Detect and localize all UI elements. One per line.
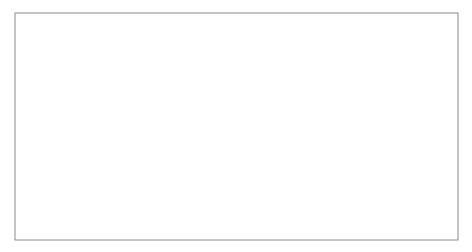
storm-jvm-diagram	[0, 0, 472, 252]
outer-frame	[15, 13, 458, 240]
